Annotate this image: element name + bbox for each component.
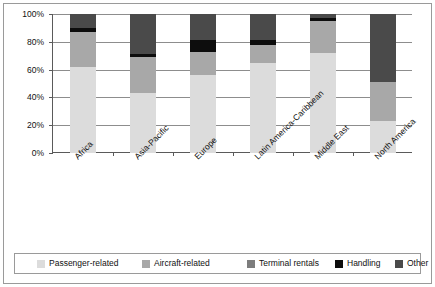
bar-segment[interactable] <box>190 14 216 40</box>
y-axis-labels: 0%20%40%60%80%100% <box>0 14 48 153</box>
y-tick-mark <box>49 97 53 98</box>
bar-segment[interactable] <box>250 14 276 40</box>
y-tick-label: 20% <box>0 121 44 130</box>
bar-column[interactable] <box>70 14 96 152</box>
bar-column[interactable] <box>310 14 336 152</box>
y-tick-mark <box>49 42 53 43</box>
chart-figure: 0%20%40%60%80%100% AfricaAsia-PacificEur… <box>0 0 435 287</box>
legend-label: Passenger-related <box>49 259 118 268</box>
bar-column[interactable] <box>190 14 216 152</box>
y-tick-label: 60% <box>0 65 44 74</box>
gridline <box>53 125 412 126</box>
bar-segment[interactable] <box>370 82 396 121</box>
gridline <box>53 70 412 71</box>
bar-column[interactable] <box>130 14 156 152</box>
bar-column[interactable] <box>250 14 276 152</box>
bar-segment[interactable] <box>130 14 156 54</box>
x-axis-labels: AfricaAsia-PacificEuropeLatin America-Ca… <box>52 155 412 215</box>
gridline <box>53 14 412 15</box>
legend-swatch-icon <box>142 260 150 268</box>
legend-item[interactable]: Handling <box>335 259 381 268</box>
axes <box>52 14 412 153</box>
bar-segment[interactable] <box>70 67 96 153</box>
legend-item[interactable]: Other <box>395 259 428 268</box>
legend-swatch-icon <box>37 260 45 268</box>
y-tick-mark <box>49 70 53 71</box>
chart-legend: Passenger-relatedAircraft-relatedTermina… <box>14 253 421 274</box>
y-tick-label: 40% <box>0 93 44 102</box>
y-tick-label: 100% <box>0 10 44 19</box>
legend-label: Aircraft-related <box>154 259 210 268</box>
legend-swatch-icon <box>247 260 255 268</box>
plot-area <box>52 14 412 153</box>
bar-segment[interactable] <box>70 28 96 32</box>
legend-item[interactable]: Passenger-related <box>37 259 118 268</box>
legend-label: Handling <box>347 259 381 268</box>
bar-segment[interactable] <box>310 18 336 21</box>
legend-item[interactable]: Terminal rentals <box>247 259 319 268</box>
bar-segment[interactable] <box>130 57 156 93</box>
bar-segment[interactable] <box>250 45 276 63</box>
y-tick-mark <box>49 153 53 154</box>
bar-segment[interactable] <box>310 14 336 18</box>
y-tick-label: 0% <box>0 149 44 158</box>
legend-swatch-icon <box>395 260 403 268</box>
bar-segment[interactable] <box>190 40 216 51</box>
bar-segment[interactable] <box>250 40 276 44</box>
bar-segment[interactable] <box>130 54 156 57</box>
bar-segment[interactable] <box>310 21 336 53</box>
bar-column[interactable] <box>370 14 396 152</box>
y-tick-label: 80% <box>0 38 44 47</box>
legend-item[interactable]: Aircraft-related <box>142 259 210 268</box>
legend-label: Other <box>407 259 428 268</box>
gridline <box>53 97 412 98</box>
y-tick-mark <box>49 125 53 126</box>
legend-swatch-icon <box>335 260 343 268</box>
y-tick-mark <box>49 14 53 15</box>
bar-segment[interactable] <box>370 14 396 82</box>
legend-label: Terminal rentals <box>259 259 319 268</box>
bar-segment[interactable] <box>70 14 96 28</box>
bar-segment[interactable] <box>190 52 216 76</box>
gridline <box>53 42 412 43</box>
bar-segment[interactable] <box>70 32 96 67</box>
